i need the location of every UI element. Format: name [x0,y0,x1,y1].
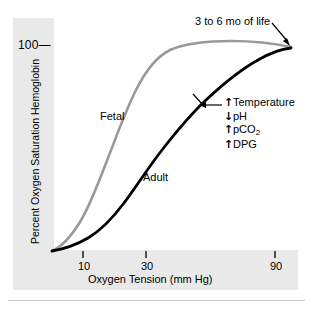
right-shift-factors-list: ↑Temperature ↓pH ↑pCO2 ↑DPG [224,96,295,151]
factor-row-temperature: ↑Temperature [224,96,295,110]
x-tick-label-90: 90 [270,261,282,272]
factor-label-dpg: DPG [233,138,257,150]
x-tick-label-10: 10 [78,261,90,272]
x-axis-ticks [83,251,275,258]
down-arrow-icon: ↓ [224,110,233,124]
x-axis-title: Oxygen Tension (mm Hg) [88,274,213,285]
factor-row-dpg: ↑DPG [224,138,295,152]
x-tick-label-30: 30 [141,261,153,272]
up-arrow-icon: ↑ [224,96,233,110]
up-arrow-icon: ↑ [224,123,233,137]
y-axis-title: Percent Oxygen Saturation Hemoglobin [30,59,41,244]
factor-label-temperature: Temperature [233,96,295,108]
factor-row-ph: ↓pH [224,110,295,124]
right-shift-factors-arrow [193,94,222,108]
curve-label-fetal: Fetal [100,111,124,122]
factor-label-pco2: pCO [233,123,256,135]
up-arrow-icon: ↑ [224,138,233,152]
y-tick-label-100: 100— [18,39,51,51]
convergence-note-arrow [272,23,290,46]
convergence-note-label: 3 to 6 mo of life [195,16,270,27]
factor-label-pco2-subscript: 2 [256,128,260,137]
factor-row-pco2: ↑pCO2 [224,123,295,138]
factor-label-ph: pH [233,110,247,122]
oxygen-hemoglobin-dissociation-figure: Percent Oxygen Saturation Hemoglobin 100… [0,0,313,314]
curve-label-adult: Adult [143,172,168,183]
